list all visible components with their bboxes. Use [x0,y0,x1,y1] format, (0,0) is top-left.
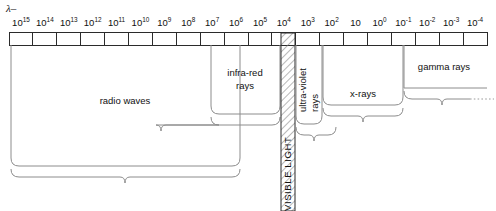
axis-tick-label: 107 [205,16,220,28]
electromagnetic-spectrum-diagram: λ– 1015101410131012101110101091081071061… [0,0,496,211]
axis-tick-label: 1010 [132,16,150,28]
axis-tick-label: 109 [157,16,172,28]
band-infra-red-rays-label-line1: infra-red [227,67,262,78]
band-ultra-violet-rays-label-line2: rays [309,94,320,112]
axis-tick-label: 108 [181,16,196,28]
axis-tick-label: 10 [350,17,361,28]
axis-tick-label: 100 [372,16,387,28]
axis-tick-label: 105 [253,16,268,28]
band-visible-light-label: VISIBLE LIGHT [282,137,293,211]
axis-tick-label: 1015 [12,16,30,28]
band-gamma-rays-brace [404,91,470,105]
axis-tick-label: 106 [229,16,244,28]
band-ultra-violet-rays-label-line1: ultra-violet [297,68,308,112]
axis-tick-label: 1013 [60,16,78,28]
band-infra-red-rays-brace [156,117,280,131]
axis-tick-label: 10-1 [395,16,412,28]
wavelength-lambda-label: λ– [5,2,17,14]
axis-tick-label: 10-4 [467,16,484,28]
axis-tick-labels: 1015101410131012101110101091081071061051… [12,16,484,28]
axis-tick-label: 1011 [108,16,126,28]
band-x-rays-brace [323,108,403,122]
axis-tick-label: 10-3 [443,16,460,28]
axis-tick-label: 10-2 [419,16,436,28]
axis-tick-label: 102 [325,16,340,28]
band-x-rays-label: x-rays [350,88,376,99]
band-ultra-violet-rays-brace [296,127,336,141]
axis-tick-label: 1012 [84,16,102,28]
band-radio-waves-brace [11,169,240,183]
axis-tick-label: 103 [301,16,316,28]
spectrum-canvas: λ– 1015101410131012101110101091081071061… [0,0,496,211]
axis-tick-label: 1014 [36,16,54,28]
axis-tick-marks [33,32,463,45]
band-infra-red-rays-label-line2: rays [236,80,254,91]
band-radio-waves-label: radio waves [100,95,151,106]
band-gamma-rays-label: gamma rays [418,61,471,72]
axis-tick-label: 104 [277,16,292,28]
